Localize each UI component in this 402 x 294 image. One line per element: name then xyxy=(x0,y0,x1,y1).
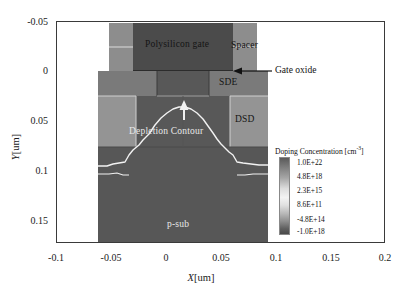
x-tick-label-2: 0 xyxy=(148,253,184,263)
x-tick-minor-1 xyxy=(79,242,80,243)
colorbar-tick-list: 1.0E+22 4.8E+18 2.3E+15 8.6E+11 -4.8E+14… xyxy=(297,157,377,235)
x-tick-minor-7 xyxy=(156,242,157,243)
p-sub-label: p-sub xyxy=(167,219,189,229)
x-tick-minor-0 xyxy=(68,242,69,243)
y-tick-label-1: 0 xyxy=(14,66,48,76)
y-tick-minor-7 xyxy=(56,147,57,148)
region-sde-left xyxy=(98,71,157,96)
y-tick-label-0: -0.05 xyxy=(14,17,48,27)
x-tick-minor-5 xyxy=(134,242,135,243)
x-tick-major-4 xyxy=(277,242,278,243)
x-tick-minor-21 xyxy=(354,242,355,243)
y-tick-major-2 xyxy=(56,121,57,122)
y-tick-major-0 xyxy=(56,22,57,23)
y-axis-title: Y[um] xyxy=(10,134,21,160)
x-tick-minor-2 xyxy=(90,242,91,243)
x-tick-major-2 xyxy=(167,242,168,243)
x-tick-major-0 xyxy=(57,242,58,243)
x-tick-major-5 xyxy=(332,242,333,243)
y-tick-minor-10 xyxy=(56,197,57,198)
y-tick-minor-3 xyxy=(56,83,57,84)
region-dsd-left xyxy=(98,96,136,147)
x-tick-minor-15 xyxy=(266,242,267,243)
region-sde-right xyxy=(209,71,268,96)
colorbar-title: Doping Concentration [cm-3] xyxy=(275,145,364,156)
x-tick-major-1 xyxy=(112,242,113,243)
x-tick-minor-8 xyxy=(178,242,179,243)
x-tick-minor-22 xyxy=(365,242,366,243)
y-tick-minor-12 xyxy=(56,234,57,235)
x-tick-label-1: -0.05 xyxy=(93,253,129,263)
x-tick-minor-19 xyxy=(321,242,322,243)
x-tick-label-3: 0.05 xyxy=(203,253,239,263)
x-tick-major-6 xyxy=(383,242,384,243)
x-tick-minor-11 xyxy=(211,242,212,243)
x-tick-minor-18 xyxy=(310,242,311,243)
x-tick-minor-17 xyxy=(299,242,300,243)
y-tick-major-3 xyxy=(56,171,57,172)
y-tick-major-1 xyxy=(56,71,57,72)
depletion-contour-label: Depletion Contour xyxy=(129,126,203,136)
y-axis-title-symbol: Y xyxy=(10,154,21,160)
x-tick-minor-20 xyxy=(343,242,344,243)
colorbar-tick-2: 2.3E+15 xyxy=(297,186,322,195)
y-tick-minor-2 xyxy=(56,60,57,61)
y-tick-minor-5 xyxy=(56,109,57,110)
y-axis-title-unit: [um] xyxy=(10,134,21,154)
x-axis-title: X[um] xyxy=(0,272,402,283)
y-tick-minor-0 xyxy=(56,35,57,36)
x-tick-minor-6 xyxy=(145,242,146,243)
x-tick-minor-10 xyxy=(200,242,201,243)
y-tick-minor-1 xyxy=(56,48,57,49)
y-tick-minor-4 xyxy=(56,96,57,97)
x-tick-label-0: -0.1 xyxy=(38,253,74,263)
colorbar-tick-1: 4.8E+18 xyxy=(297,172,322,181)
x-tick-minor-16 xyxy=(288,242,289,243)
y-tick-minor-9 xyxy=(56,184,57,185)
x-axis-title-unit: [um] xyxy=(194,272,214,283)
colorbar-tick-3: 8.6E+11 xyxy=(297,200,322,209)
plot-area: Polysilicon gate Spacer SDE DSD Depletio… xyxy=(56,21,385,243)
x-tick-minor-23 xyxy=(373,242,374,243)
gate-oxide-label: Gate oxide xyxy=(275,65,316,75)
y-tick-label-3: 0.1 xyxy=(14,166,48,176)
y-tick-major-4 xyxy=(56,221,57,222)
x-tick-minor-4 xyxy=(123,242,124,243)
y-tick-minor-11 xyxy=(56,209,57,210)
x-tick-minor-14 xyxy=(255,242,256,243)
colorbar-tick-5: -1.0E+18 xyxy=(297,227,325,236)
spacer-label: Spacer xyxy=(231,40,258,50)
dsd-label: DSD xyxy=(235,114,255,124)
colorbar-tick-0: 1.0E+22 xyxy=(297,158,322,167)
y-tick-minor-8 xyxy=(56,159,57,160)
y-tick-minor-6 xyxy=(56,134,57,135)
y-tick-label-2: 0.05 xyxy=(14,116,48,126)
x-tick-minor-12 xyxy=(233,242,234,243)
x-tick-minor-3 xyxy=(101,242,102,243)
x-tick-label-5: 0.15 xyxy=(313,253,349,263)
x-tick-major-3 xyxy=(222,242,223,243)
x-tick-minor-13 xyxy=(244,242,245,243)
colorbar-gradient xyxy=(279,157,290,235)
x-tick-label-4: 0.1 xyxy=(258,253,294,263)
colorbar-tick-4: -4.8E+14 xyxy=(297,215,325,224)
colorbar-title-base: Doping Concentration [cm xyxy=(275,147,356,156)
x-tick-label-6: 0.2 xyxy=(367,253,402,263)
y-tick-label-4: 0.15 xyxy=(14,216,48,226)
colorbar-title-tail: ] xyxy=(361,147,364,156)
x-tick-minor-9 xyxy=(189,242,190,243)
polysilicon-gate-label: Polysilicon gate xyxy=(145,39,209,49)
sde-label: SDE xyxy=(219,77,238,87)
